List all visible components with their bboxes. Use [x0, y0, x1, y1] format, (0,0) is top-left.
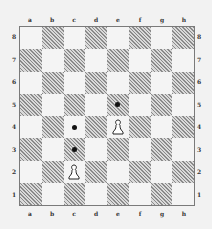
- square-g3: [151, 138, 173, 160]
- square-c6: [64, 72, 86, 94]
- square-e6: [107, 72, 129, 94]
- square-e5: [107, 94, 129, 116]
- square-b2: [42, 161, 64, 183]
- square-b1: [42, 183, 64, 205]
- square-a4: [20, 116, 42, 138]
- file-label-h: h: [179, 16, 189, 24]
- marker-dot-icon: [72, 125, 77, 130]
- file-label-c: c: [69, 210, 79, 218]
- square-d2: [85, 161, 107, 183]
- square-e8: [107, 27, 129, 49]
- file-label-a: a: [25, 210, 35, 218]
- square-h7: [172, 49, 194, 71]
- file-label-d: d: [91, 16, 101, 24]
- square-e3: [107, 138, 129, 160]
- rank-label-2: 2: [9, 168, 19, 176]
- square-c4: [64, 116, 86, 138]
- file-label-b: b: [47, 210, 57, 218]
- rank-label-8: 8: [194, 33, 204, 41]
- rank-label-1: 1: [194, 191, 204, 199]
- square-g4: [151, 116, 173, 138]
- square-a8: [20, 27, 42, 49]
- square-b3: [42, 138, 64, 160]
- square-c7: [64, 49, 86, 71]
- square-b5: [42, 94, 64, 116]
- square-d8: [85, 27, 107, 49]
- square-f5: [129, 94, 151, 116]
- square-f7: [129, 49, 151, 71]
- square-c8: [64, 27, 86, 49]
- square-f8: [129, 27, 151, 49]
- square-a3: [20, 138, 42, 160]
- square-g5: [151, 94, 173, 116]
- square-c2: [64, 161, 86, 183]
- rank-label-6: 6: [194, 78, 204, 86]
- square-g2: [151, 161, 173, 183]
- square-a2: [20, 161, 42, 183]
- square-h4: [172, 116, 194, 138]
- square-c3: [64, 138, 86, 160]
- rank-label-4: 4: [194, 123, 204, 131]
- square-f6: [129, 72, 151, 94]
- rank-label-1: 1: [9, 191, 19, 199]
- square-g7: [151, 49, 173, 71]
- square-b7: [42, 49, 64, 71]
- marker-dot-icon: [115, 102, 120, 107]
- file-label-e: e: [113, 16, 123, 24]
- square-b8: [42, 27, 64, 49]
- square-f3: [129, 138, 151, 160]
- square-b4: [42, 116, 64, 138]
- square-h6: [172, 72, 194, 94]
- square-h8: [172, 27, 194, 49]
- rank-label-8: 8: [9, 33, 19, 41]
- rank-label-2: 2: [194, 168, 204, 176]
- rank-label-7: 7: [194, 56, 204, 64]
- square-d5: [85, 94, 107, 116]
- square-h2: [172, 161, 194, 183]
- file-label-f: f: [135, 210, 145, 218]
- square-h3: [172, 138, 194, 160]
- square-f1: [129, 183, 151, 205]
- square-a6: [20, 72, 42, 94]
- square-d7: [85, 49, 107, 71]
- square-a5: [20, 94, 42, 116]
- square-c1: [64, 183, 86, 205]
- file-label-b: b: [47, 16, 57, 24]
- square-e2: [107, 161, 129, 183]
- white-pawn-icon: [67, 163, 81, 180]
- square-c5: [64, 94, 86, 116]
- file-label-a: a: [25, 16, 35, 24]
- rank-label-3: 3: [194, 146, 204, 154]
- file-label-f: f: [135, 16, 145, 24]
- square-e1: [107, 183, 129, 205]
- square-f4: [129, 116, 151, 138]
- file-label-g: g: [157, 16, 167, 24]
- file-label-g: g: [157, 210, 167, 218]
- square-a1: [20, 183, 42, 205]
- square-h1: [172, 183, 194, 205]
- rank-label-5: 5: [9, 101, 19, 109]
- square-g6: [151, 72, 173, 94]
- rank-label-7: 7: [9, 56, 19, 64]
- marker-dot-icon: [72, 147, 77, 152]
- file-label-e: e: [113, 210, 123, 218]
- rank-label-3: 3: [9, 146, 19, 154]
- file-label-h: h: [179, 210, 189, 218]
- square-e7: [107, 49, 129, 71]
- square-g1: [151, 183, 173, 205]
- chessboard: [19, 26, 195, 206]
- square-g8: [151, 27, 173, 49]
- square-e4: [107, 116, 129, 138]
- square-d1: [85, 183, 107, 205]
- rank-label-5: 5: [194, 101, 204, 109]
- file-label-d: d: [91, 210, 101, 218]
- square-d6: [85, 72, 107, 94]
- rank-label-6: 6: [9, 78, 19, 86]
- square-b6: [42, 72, 64, 94]
- square-a7: [20, 49, 42, 71]
- rank-label-4: 4: [9, 123, 19, 131]
- square-f2: [129, 161, 151, 183]
- square-d3: [85, 138, 107, 160]
- white-pawn-icon: [111, 119, 125, 136]
- square-h5: [172, 94, 194, 116]
